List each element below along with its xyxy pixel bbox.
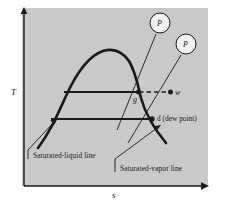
x-axis-label: s [112, 191, 116, 200]
saturated-liquid-curve [38, 51, 103, 148]
point-w-marker [168, 90, 173, 95]
point-g-label: g [133, 96, 137, 104]
point-w-label: w [175, 89, 180, 97]
point-d-marker [149, 116, 154, 121]
isobar-group [117, 34, 181, 143]
figure-canvas: T s P P g w d (dew point) Saturated-liqu… [0, 0, 227, 209]
saturated-liquid-annotation-label: Saturated-liquid line [33, 152, 96, 159]
callout-isobar-low-label: P [183, 40, 188, 49]
y-axis-arrow-icon [21, 7, 28, 14]
vapor-dome-curve [38, 50, 166, 148]
point-g-marker [136, 90, 141, 95]
y-axis-label: T [11, 88, 16, 97]
saturated-vapor-annotation-label: Saturated-vapor line [120, 165, 182, 172]
dome-crest-curve [103, 50, 129, 61]
point-d-label: d (dew point) [157, 115, 197, 122]
isobar-high-line [117, 34, 156, 130]
x-axis-arrow-icon [201, 182, 209, 189]
diagram-graphics [0, 0, 227, 209]
callout-isobar-high-label: P [157, 19, 162, 28]
